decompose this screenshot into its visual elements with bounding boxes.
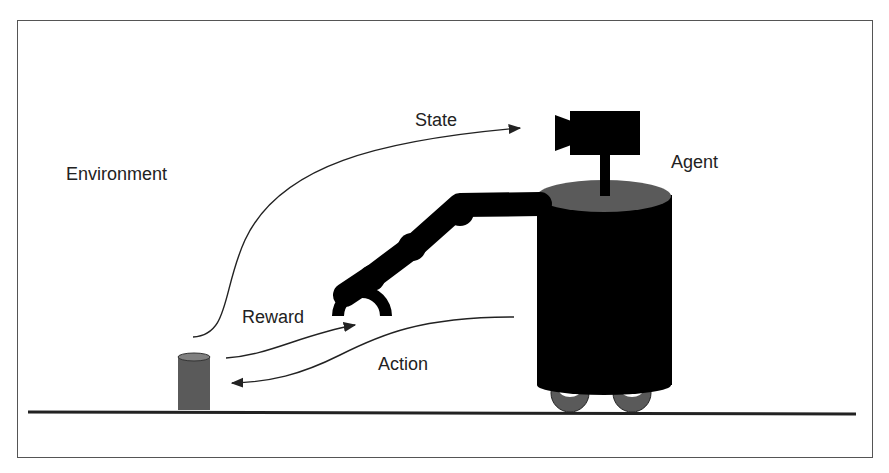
reward-label: Reward — [242, 307, 304, 328]
action-label: Action — [378, 354, 428, 375]
state-arrow — [193, 128, 520, 337]
environment-label: Environment — [66, 164, 167, 185]
reward-arrow — [226, 325, 355, 358]
environment-object-icon — [178, 353, 210, 410]
state-label: State — [415, 110, 457, 131]
agent-label: Agent — [671, 152, 718, 173]
ground-line — [28, 412, 856, 414]
diagram-canvas — [0, 0, 889, 473]
